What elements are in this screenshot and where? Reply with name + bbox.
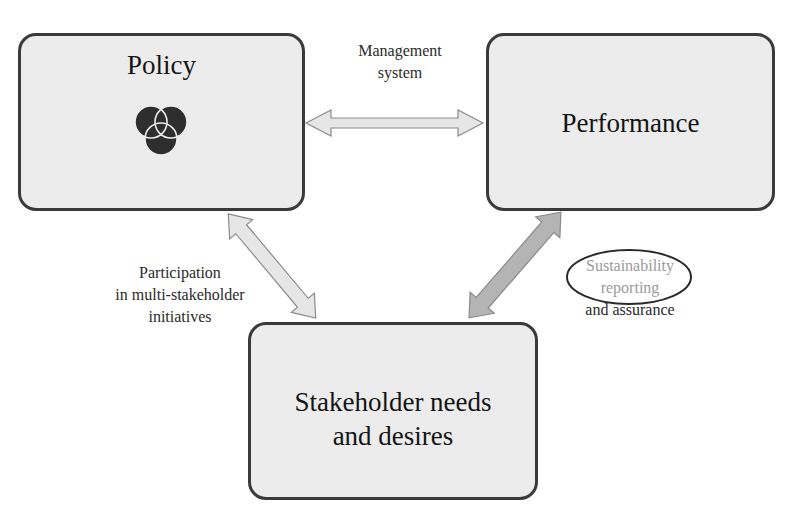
management-system-label: Management system <box>330 40 470 84</box>
label-line-highlighted: Sustainability <box>560 255 700 277</box>
label-line: initiatives <box>100 306 260 328</box>
stakeholder-box: Stakeholder needs and desires <box>248 322 538 500</box>
performance-box: Performance <box>486 33 775 211</box>
stakeholder-title-line2: and desires <box>251 419 535 453</box>
performance-title: Performance <box>489 108 772 139</box>
label-line: Participation <box>100 262 260 284</box>
label-line: and assurance <box>585 301 674 318</box>
participation-label: Participation in multi-stakeholder initi… <box>100 262 260 328</box>
sustainability-reporting-label: Sustainability reporting and assurance <box>560 255 700 321</box>
label-line: in multi-stakeholder <box>100 284 260 306</box>
stakeholder-title: Stakeholder needs and desires <box>251 385 535 453</box>
policy-title: Policy <box>21 50 302 81</box>
double-arrow-policy-performance <box>306 110 483 136</box>
label-line: Management <box>330 40 470 62</box>
double-arrow-performance-stakeholder <box>457 202 573 329</box>
label-line: system <box>330 62 470 84</box>
label-line-highlighted: reporting <box>560 277 700 299</box>
stakeholder-title-line1: Stakeholder needs <box>251 385 535 419</box>
venn-diagram-icon <box>132 102 190 160</box>
